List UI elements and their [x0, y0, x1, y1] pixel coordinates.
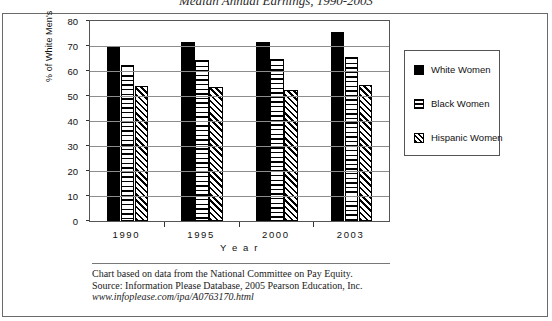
- bar-1990-white-women: [107, 47, 121, 221]
- y-tick-label-70: 70: [67, 41, 78, 52]
- bar-1990-hispanic-women: [135, 86, 149, 222]
- legend-swatch-icon-2: [414, 133, 424, 143]
- gridline-60: [90, 71, 389, 72]
- y-axis-title: % of White Men's: [44, 68, 54, 82]
- y-tick-label-20: 20: [67, 166, 78, 177]
- x-tick-label-2000: 2000: [262, 229, 290, 240]
- footnote-line-1: Chart based on data from the National Co…: [92, 268, 512, 280]
- gridline-20: [90, 171, 389, 172]
- x-axis-title: Y e a r: [89, 242, 390, 253]
- y-tick-label-0: 0: [73, 216, 78, 227]
- legend-swatch-icon-1: [414, 99, 424, 109]
- gridline-70: [90, 46, 389, 47]
- bar-2003-white-women: [331, 32, 345, 222]
- y-tick-label-50: 50: [67, 91, 78, 102]
- legend-swatch-icon-0: [414, 65, 424, 75]
- bar-1990-black-women: [121, 65, 135, 221]
- legend-item-hispanic-women: Hispanic Women: [414, 132, 503, 143]
- x-tick-label-1995: 1995: [187, 229, 215, 240]
- bar-1995-white-women: [181, 42, 195, 221]
- y-tick-label-80: 80: [67, 16, 78, 27]
- footnotes: Chart based on data from the National Co…: [92, 268, 512, 303]
- legend-label: White Women: [431, 64, 490, 75]
- legend-label: Hispanic Women: [431, 132, 503, 143]
- x-tick-3: [313, 222, 314, 227]
- bar-2003-hispanic-women: [359, 85, 373, 221]
- x-axis-tick-labels: 1990199520002003: [89, 229, 390, 243]
- bar-1995-hispanic-women: [209, 87, 223, 222]
- y-tick-label-40: 40: [67, 116, 78, 127]
- x-tick-2: [239, 222, 240, 227]
- footnote-source-url: www.infoplease.com/ipa/A0763170.html: [92, 291, 512, 303]
- y-tick-label-60: 60: [67, 66, 78, 77]
- gridline-40: [90, 121, 389, 122]
- gridline-10: [90, 196, 389, 197]
- footnote-divider: [92, 263, 390, 264]
- legend-item-black-women: Black Women: [414, 98, 489, 109]
- bar-2000-white-women: [256, 42, 270, 222]
- chart-legend: White WomenBlack WomenHispanic Women: [404, 50, 500, 156]
- footnote-line-2: Source: Information Please Database, 200…: [92, 280, 512, 292]
- y-tick-label-10: 10: [67, 191, 78, 202]
- x-tick-1: [164, 222, 165, 227]
- plot-area: [89, 20, 390, 222]
- y-tick-label-30: 30: [67, 141, 78, 152]
- y-axis-tick-labels: 01020304050607080: [0, 0, 84, 222]
- bar-2000-hispanic-women: [284, 90, 298, 221]
- legend-item-white-women: White Women: [414, 64, 490, 75]
- gridline-50: [90, 96, 389, 97]
- chart-page: Median Annual Earnings, 1990-2003 010203…: [0, 0, 552, 321]
- x-tick-label-2003: 2003: [337, 229, 365, 240]
- gridline-30: [90, 146, 389, 147]
- x-tick-label-1990: 1990: [113, 229, 141, 240]
- legend-label: Black Women: [431, 98, 489, 109]
- x-axis-ticks: [89, 222, 390, 227]
